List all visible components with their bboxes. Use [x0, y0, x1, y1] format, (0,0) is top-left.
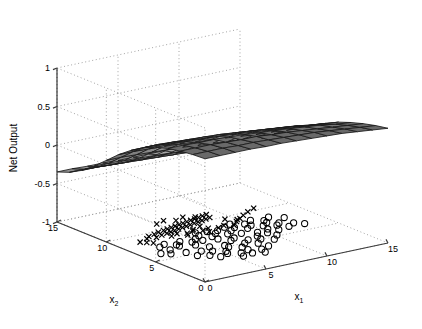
floor-scatter [138, 206, 308, 260]
scatter-marker-cross [245, 209, 250, 214]
wall-gridline-z-left [57, 184, 205, 244]
scatter-marker-circle [265, 214, 271, 220]
wall-gridline-z-right [57, 183, 240, 222]
scatter-series-class-circle [157, 214, 308, 260]
wall-gridline-z-left [57, 68, 205, 128]
tick-label-x2: 15 [48, 223, 58, 233]
wall-gridline-z-right [57, 68, 240, 107]
scatter-marker-circle [238, 230, 244, 236]
scatter-marker-circle [158, 250, 164, 256]
axis-title-x1-sub: 1 [300, 297, 304, 304]
scatter-marker-circle [222, 242, 228, 248]
scatter-marker-cross [146, 234, 151, 239]
tick-label-x1: 0 [207, 283, 212, 293]
plot-canvas: -1-0.500.51051015051015Net Outputx2x1 [0, 0, 422, 329]
floor-gridline-x1 [179, 196, 327, 256]
scatter-marker-cross [180, 215, 185, 220]
tick-mark-x2 [106, 240, 110, 242]
wall-gridline-z-right [57, 29, 240, 68]
scatter-marker-circle [194, 252, 200, 258]
scatter-marker-cross [151, 240, 156, 245]
tick-mark-x1 [264, 265, 266, 269]
scatter-marker-circle [254, 229, 260, 235]
scatter-marker-circle [218, 254, 224, 260]
scatter-marker-circle [206, 244, 212, 250]
axis-title-x2-sub: 2 [115, 300, 119, 307]
tick-label-x1: 10 [327, 257, 337, 267]
axis-title-net-output: Net Output [8, 124, 19, 173]
scatter-marker-cross [251, 206, 256, 211]
scatter-marker-circle [167, 247, 173, 253]
tick-label-x2: 10 [97, 243, 107, 253]
scatter-marker-cross [197, 224, 202, 229]
axis-title-x1: x1 [295, 291, 304, 304]
scatter-marker-cross [173, 218, 178, 223]
floor-gridline-x1 [240, 183, 388, 243]
scatter-marker-circle [249, 250, 255, 256]
tick-label-z: 0.5 [37, 102, 50, 112]
tick-label-z: -0.5 [34, 179, 50, 189]
tick-label-x2: 5 [149, 263, 154, 273]
scatter-marker-circle [291, 220, 297, 226]
tick-label-x1: 15 [388, 244, 398, 254]
scatter-marker-cross [154, 221, 159, 226]
tick-mark-x1 [325, 252, 327, 256]
scatter-marker-circle [242, 221, 248, 227]
scatter-marker-cross [241, 213, 246, 218]
tick-mark-x1 [386, 239, 388, 243]
scatter-marker-circle [265, 226, 271, 232]
scatter-marker-cross [144, 240, 149, 245]
figure-3d-surface-plot: -1-0.500.51051015051015Net Outputx2x1 [0, 0, 422, 329]
tick-label-x1: 5 [268, 270, 273, 280]
scatter-marker-cross [154, 235, 159, 240]
scatter-marker-cross [161, 218, 166, 223]
scatter-marker-circle [245, 247, 251, 253]
axis-line-x1 [205, 243, 388, 282]
scatter-marker-cross [169, 233, 174, 238]
scatter-marker-cross [138, 240, 143, 245]
scatter-marker-circle [302, 220, 308, 226]
axis-labels: -1-0.500.51051015051015Net Outputx2x1 [8, 63, 398, 307]
tick-label-x2: 0 [198, 283, 203, 293]
scatter-marker-cross [200, 228, 205, 233]
scatter-marker-circle [183, 249, 189, 255]
scatter-marker-circle [281, 214, 287, 220]
scatter-marker-circle [265, 243, 271, 249]
tick-label-z: 0 [45, 140, 50, 150]
scatter-marker-circle [227, 221, 233, 227]
tick-mark-x2 [156, 260, 160, 262]
tick-label-z: 1 [45, 63, 50, 73]
axis-title-x2: x2 [110, 294, 119, 307]
scatter-marker-cross [222, 217, 227, 222]
